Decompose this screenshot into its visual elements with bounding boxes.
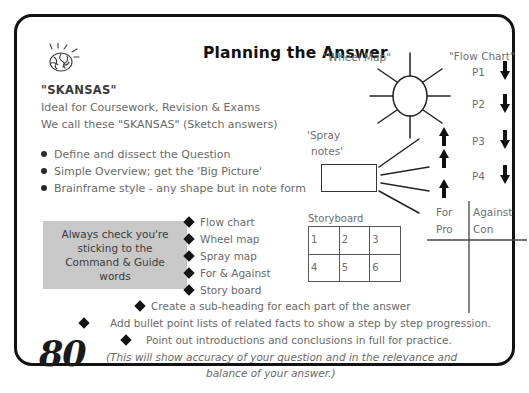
method-list-label: Flow chart <box>200 216 255 228</box>
intro-line-2: We call these "SKANSAS" (Sketch answers) <box>41 118 278 131</box>
spray-notes-label-line-2: notes' <box>311 145 343 157</box>
closing-note-line-2: balance of your answer.) <box>206 367 335 379</box>
flow-chart-step-p3: P3 <box>472 135 485 147</box>
spray-notes-box <box>321 164 377 192</box>
storyboard-cell: 1 <box>309 227 340 255</box>
diamond-bullet-icon <box>78 317 89 328</box>
spray-notes-label-line-1: 'Spray <box>307 129 340 141</box>
for-against-table <box>427 201 529 316</box>
arrow-down-icon <box>500 130 510 149</box>
method-list-label: Wheel map <box>200 233 260 245</box>
flow-chart-up-arrows <box>436 127 454 205</box>
flow-chart-step-p1: P1 <box>472 66 485 78</box>
diamond-bullet-icon <box>134 300 145 311</box>
intro-line-1: Ideal for Coursework, Revision & Exams <box>41 101 260 114</box>
bullet-dot-icon <box>41 185 47 191</box>
bottom-point-item: Add bullet point lists of related facts … <box>80 317 491 329</box>
command-box-line: Command & Guide <box>65 255 165 269</box>
bottom-point-label: Add bullet point lists of related facts … <box>110 317 491 329</box>
flow-chart-step-p2: P2 <box>472 98 485 110</box>
bottom-point-item: Create a sub-heading for each part of th… <box>136 300 411 312</box>
diamond-bullet-icon <box>183 250 194 261</box>
intro-heading: "SKANSAS" <box>41 83 117 97</box>
key-point-item: Define and dissect the Question <box>41 148 230 161</box>
rounded-card-frame: Planning the Answer "SKANSAS" Ideal for … <box>14 14 515 366</box>
command-box-line: words <box>99 269 130 283</box>
storyboard-cell: 3 <box>370 227 401 255</box>
diamond-bullet-icon <box>183 216 194 227</box>
command-box-line: Always check you're <box>62 227 169 241</box>
method-list-item: Spray map <box>185 250 257 262</box>
method-list-item: Flow chart <box>185 216 255 228</box>
worksheet-page: Planning the Answer "SKANSAS" Ideal for … <box>0 0 529 393</box>
method-list-label: Story board <box>200 284 261 296</box>
method-list-label: For & Against <box>200 267 271 279</box>
arrow-down-icon <box>500 61 510 80</box>
method-list-label: Spray map <box>200 250 257 262</box>
storyboard-caption: Storyboard <box>308 213 363 224</box>
brain-doodle-icon <box>41 43 87 77</box>
flow-chart-down-arrows <box>497 61 515 191</box>
storyboard-cell: 5 <box>340 255 371 283</box>
key-point-item: Simple Overview; get the 'Big Picture' <box>41 165 262 178</box>
arrow-down-icon <box>500 165 510 184</box>
diamond-bullet-icon <box>120 334 131 345</box>
arrow-up-icon <box>439 127 449 146</box>
bottom-point-item: Point out introductions and conclusions … <box>122 334 452 346</box>
key-point-item: Brainframe style - any shape but in note… <box>41 182 306 195</box>
diamond-bullet-icon <box>183 233 194 244</box>
key-point-label: Simple Overview; get the 'Big Picture' <box>54 165 262 178</box>
storyboard-cell: 2 <box>340 227 371 255</box>
command-box-line: sticking to the <box>77 241 152 255</box>
bullet-dot-icon <box>41 168 47 174</box>
arrow-up-icon <box>439 149 449 168</box>
method-list-item: For & Against <box>185 267 271 279</box>
storyboard-cell: 6 <box>370 255 401 283</box>
diamond-bullet-icon <box>183 267 194 278</box>
storyboard-cell: 4 <box>309 255 340 283</box>
storyboard-grid: 1 2 3 4 5 6 <box>308 226 401 282</box>
bottom-point-label: Point out introductions and conclusions … <box>146 334 452 346</box>
closing-note-line-1: (This will show accuracy of your questio… <box>106 351 457 363</box>
bottom-point-label: Create a sub-heading for each part of th… <box>151 300 411 312</box>
arrow-down-icon <box>500 94 510 113</box>
arrow-up-icon <box>439 179 449 198</box>
bullet-dot-icon <box>41 151 47 157</box>
key-point-label: Brainframe style - any shape but in note… <box>54 182 306 195</box>
flow-chart-step-p4: P4 <box>472 170 485 182</box>
method-list-item: Story board <box>185 284 261 296</box>
command-guide-box: Always check you're sticking to the Comm… <box>43 221 187 289</box>
method-list-item: Wheel map <box>185 233 260 245</box>
page-number: 80 <box>39 333 86 374</box>
key-point-label: Define and dissect the Question <box>54 148 230 161</box>
diamond-bullet-icon <box>183 284 194 295</box>
